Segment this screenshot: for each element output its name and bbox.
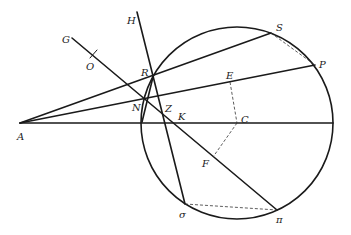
- label-G: G: [62, 34, 70, 45]
- dashed-C-F: [213, 123, 237, 157]
- dashed-sigma-pi: [185, 204, 277, 210]
- label-Z: Z: [164, 103, 173, 114]
- label-sigma: σ: [179, 209, 187, 220]
- label-K: K: [177, 111, 186, 122]
- label-E: E: [225, 70, 234, 81]
- label-pi: π: [275, 214, 283, 225]
- label-H: H: [126, 15, 136, 26]
- label-F: F: [201, 158, 210, 169]
- dashed-E-C: [230, 82, 237, 123]
- dashed-S-P: [271, 33, 315, 65]
- geometry-diagram: A G O H R N Z K S P E C F σ π: [0, 0, 351, 235]
- line-A-P: [20, 65, 315, 123]
- label-A: A: [16, 131, 24, 142]
- label-S: S: [276, 22, 283, 33]
- label-P: P: [318, 59, 326, 70]
- label-R: R: [140, 67, 149, 78]
- label-C: C: [241, 114, 249, 125]
- label-O: O: [86, 61, 94, 72]
- line-H-sigma: [137, 12, 185, 204]
- label-N: N: [131, 102, 142, 113]
